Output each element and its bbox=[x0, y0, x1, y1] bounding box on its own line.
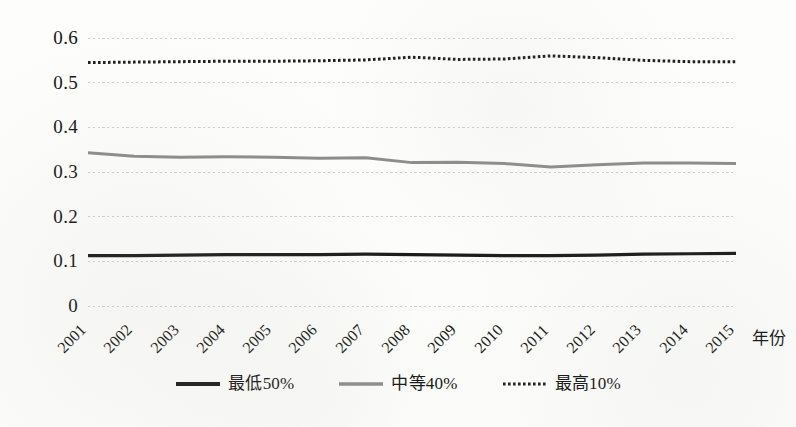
series-line-2 bbox=[88, 56, 736, 63]
legend-label: 中等40% bbox=[391, 375, 457, 392]
legend-item-1[interactable]: 中等40% bbox=[338, 375, 457, 392]
chart-legend: 最低50%中等40%最高10% bbox=[0, 375, 796, 392]
legend-swatch-dotted-black bbox=[502, 377, 548, 391]
series-line-1 bbox=[88, 153, 736, 167]
y-tick-label-0.2: 0.2 bbox=[20, 207, 78, 226]
chart-plot-area bbox=[0, 0, 796, 427]
line-chart: 00.10.20.30.40.50.6 20012002200320042005… bbox=[0, 0, 796, 427]
y-tick-label-0.6: 0.6 bbox=[20, 28, 78, 47]
legend-swatch-solid-gray bbox=[338, 377, 384, 391]
legend-item-2[interactable]: 最高10% bbox=[502, 375, 621, 392]
legend-swatch-solid-black-thick bbox=[175, 377, 221, 391]
series-line-0 bbox=[88, 253, 736, 255]
legend-label: 最低50% bbox=[228, 375, 294, 392]
x-axis-title: 年份 bbox=[752, 330, 786, 347]
y-tick-label-0: 0 bbox=[20, 296, 78, 315]
legend-item-0[interactable]: 最低50% bbox=[175, 375, 294, 392]
y-tick-label-0.3: 0.3 bbox=[20, 162, 78, 181]
legend-label: 最高10% bbox=[555, 375, 621, 392]
y-tick-label-0.5: 0.5 bbox=[20, 73, 78, 92]
y-tick-label-0.4: 0.4 bbox=[20, 117, 78, 136]
y-tick-label-0.1: 0.1 bbox=[20, 251, 78, 270]
